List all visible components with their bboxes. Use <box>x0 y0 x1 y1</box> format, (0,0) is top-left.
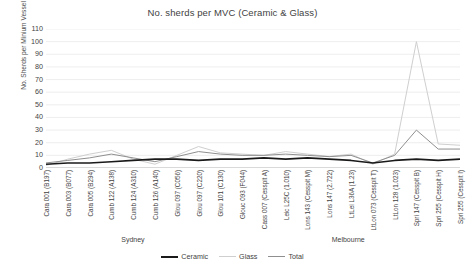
x-tick-label-text: LtLon 073 (Cesspit T) <box>369 170 376 230</box>
legend-label: Total <box>288 252 303 261</box>
chart-title: No. sherds per MVC (Ceramic & Glass) <box>0 7 465 18</box>
x-tick-label: Cara 001 (B197) <box>39 168 53 238</box>
legend-swatch-ceramic-icon <box>161 256 178 258</box>
legend-label: Glass <box>239 252 257 261</box>
y-tick-label: 10 <box>3 151 43 159</box>
x-tick-label: LtLei L36A (1.23) <box>344 168 358 238</box>
y-tick-label: 110 <box>3 25 43 33</box>
x-tick-label-text: Glou 097 (C220) <box>195 170 202 217</box>
x-tick-label: Spri 255 (Cesspit I) <box>453 168 467 238</box>
y-tick-label: 20 <box>3 139 43 147</box>
x-tick-label: Cass 007 (Cesspit A) <box>257 168 271 238</box>
plot-area <box>46 29 460 168</box>
x-tick-label: LtLon 128 (1.023) <box>388 168 402 238</box>
y-axis-tick-labels: 0102030405060708090100110 <box>0 0 43 275</box>
x-tick-label: Cumb 122 (A138) <box>104 168 118 238</box>
x-tick-label-text: Glou 097 (C056) <box>173 170 180 217</box>
x-tick-label-text: Spri 147 (Cesspit B) <box>413 170 420 226</box>
x-tick-label-text: Spri 255 (Cesspit I) <box>457 170 464 224</box>
x-axis-tick-labels: Cara 001 (B197)Cara 003 (B077)Cara 005 (… <box>46 168 460 238</box>
x-tick-label: Cumb 126 (A140) <box>148 168 162 238</box>
x-tick-label-text: Cumb 122 (A138) <box>108 170 115 220</box>
x-tick-label: Cumb 124 (A310) <box>126 168 140 238</box>
x-tick-label: Cara 005 (B294) <box>83 168 97 238</box>
x-tick-label-text: Cumb 124 (A310) <box>130 170 137 220</box>
series-glass <box>46 42 460 166</box>
x-tick-label: Glou 101 (C130) <box>213 168 227 238</box>
x-tick-label-text: Cara 001 (B197) <box>43 170 50 217</box>
x-tick-label: Leic L25C (1.010) <box>279 168 293 238</box>
x-tick-label: Spri 147 (Cesspit B) <box>409 168 423 238</box>
x-tick-label: Spri 255 (Cesspit H) <box>431 168 445 238</box>
x-tick-label: Lons 143 (Cesspit M) <box>300 168 314 238</box>
x-tick-label-text: Glou 101 (C130) <box>217 170 224 217</box>
x-tick-label: Lons 147 (2.722) <box>322 168 336 238</box>
x-tick-label-text: Cumb 126 (A140) <box>151 170 158 220</box>
legend-item-glass[interactable]: Glass <box>219 252 257 261</box>
y-tick-label: 50 <box>3 101 43 109</box>
y-tick-label: 90 <box>3 50 43 58</box>
series-ceramic <box>46 158 460 164</box>
x-tick-label-text: Spri 255 (Cesspit H) <box>435 170 442 227</box>
x-tick-label-text: Leic L25C (1.010) <box>282 170 289 220</box>
x-tick-label-text: Cara 005 (B294) <box>86 170 93 217</box>
x-tick-label: Cara 003 (B077) <box>61 168 75 238</box>
y-tick-label: 0 <box>3 164 43 172</box>
x-axis-group-label: Melbourne <box>308 236 388 243</box>
x-tick-label-text: Cass 007 (Cesspit A) <box>260 170 267 229</box>
x-tick-label: Glou 097 (C056) <box>170 168 184 238</box>
x-tick-label: Glou 097 (C220) <box>192 168 206 238</box>
x-tick-label-text: Lons 143 (Cesspit M) <box>304 170 311 230</box>
series-lines <box>46 29 460 168</box>
x-tick-label-text: Glouc 093 (F044) <box>239 170 246 219</box>
x-tick-label-text: LtLon 128 (1.023) <box>391 170 398 220</box>
legend-swatch-total-icon <box>268 256 285 257</box>
x-tick-label-text: LtLei L36A (1.23) <box>348 170 355 218</box>
legend-item-total[interactable]: Total <box>268 252 303 261</box>
y-tick-label: 80 <box>3 63 43 71</box>
x-tick-label: Glouc 093 (F044) <box>235 168 249 238</box>
legend-swatch-glass-icon <box>219 256 236 257</box>
y-tick-label: 60 <box>3 88 43 96</box>
y-tick-label: 40 <box>3 113 43 121</box>
x-tick-label: LtLon 073 (Cesspit T) <box>366 168 380 238</box>
y-tick-label: 30 <box>3 126 43 134</box>
y-tick-label: 100 <box>3 38 43 46</box>
x-tick-label-text: Cara 003 (B077) <box>64 170 71 217</box>
legend-item-ceramic[interactable]: Ceramic <box>161 252 208 261</box>
y-tick-label: 70 <box>3 76 43 84</box>
x-tick-label-text: Lons 147 (2.722) <box>326 170 333 218</box>
chart-legend: CeramicGlassTotal <box>0 252 465 261</box>
legend-label: Ceramic <box>181 252 208 261</box>
x-axis-group-label: Sydney <box>93 236 173 243</box>
